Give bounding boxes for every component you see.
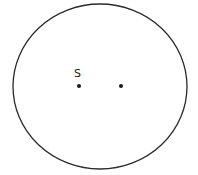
point-s-label: S <box>74 68 81 79</box>
diagram-canvas: S <box>0 0 198 175</box>
point-unlabeled <box>119 84 123 88</box>
boundary-ellipse <box>13 4 187 169</box>
point-s <box>77 84 81 88</box>
diagram-svg <box>0 0 198 175</box>
